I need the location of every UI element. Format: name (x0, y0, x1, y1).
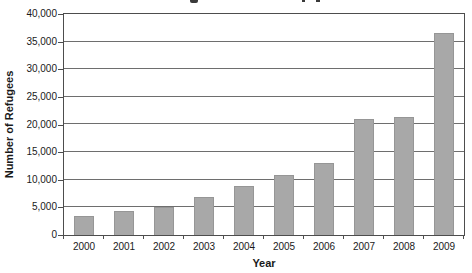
y-tick-mark (58, 97, 63, 98)
bar-2005 (274, 175, 294, 235)
x-axis-title: Year (64, 257, 464, 269)
gridline (64, 96, 464, 97)
x-tick-label: 2000 (64, 241, 104, 253)
y-tick-mark (58, 14, 63, 15)
bar-2000 (74, 216, 94, 235)
bar-2009 (434, 33, 454, 235)
x-tick-mark (183, 235, 184, 239)
x-tick-label: 2007 (344, 241, 384, 253)
bar-2007 (354, 119, 374, 235)
y-tick-mark (58, 42, 63, 43)
y-tick-mark (58, 125, 63, 126)
y-tick-mark (58, 207, 63, 208)
x-tick-label: 2004 (224, 241, 264, 253)
x-tick-label: 2001 (104, 241, 144, 253)
x-tick-label: 2005 (264, 241, 304, 253)
gridline (64, 41, 464, 42)
x-tick-mark (463, 235, 464, 239)
bar-2008 (394, 117, 414, 235)
x-tick-mark (303, 235, 304, 239)
x-tick-mark (143, 235, 144, 239)
x-tick-label: 2002 (144, 241, 184, 253)
x-tick-mark (383, 235, 384, 239)
x-tick-mark (223, 235, 224, 239)
bar-2004 (234, 186, 254, 235)
x-tick-mark (63, 235, 64, 239)
y-tick-label: 15,000 (0, 146, 57, 158)
x-tick-label: 2009 (424, 241, 464, 253)
bar-2006 (314, 163, 334, 235)
y-tick-mark (58, 152, 63, 153)
y-tick-mark (58, 69, 63, 70)
y-tick-label: 20,000 (0, 119, 57, 131)
bar-2002 (154, 207, 174, 235)
cropped-title-fragment (190, 0, 198, 3)
y-tick-label: 10,000 (0, 174, 57, 186)
y-tick-label: 35,000 (0, 36, 57, 48)
x-tick-label: 2003 (184, 241, 224, 253)
y-tick-label: 0 (0, 229, 57, 241)
cropped-title-fragment (302, 0, 305, 2)
y-tick-mark (58, 180, 63, 181)
y-tick-label: 5,000 (0, 201, 57, 213)
bar-2001 (114, 211, 134, 235)
y-tick-label: 40,000 (0, 8, 57, 20)
x-tick-mark (103, 235, 104, 239)
x-tick-mark (263, 235, 264, 239)
x-tick-mark (423, 235, 424, 239)
y-tick-label: 30,000 (0, 63, 57, 75)
plot-area (63, 13, 465, 236)
x-tick-label: 2006 (304, 241, 344, 253)
bar-2003 (194, 197, 214, 235)
refugee-bar-chart: Number of Refugees 05,00010,00015,00020,… (0, 0, 472, 273)
x-tick-label: 2008 (384, 241, 424, 253)
cropped-title-fragment (316, 0, 320, 2)
x-tick-mark (343, 235, 344, 239)
gridline (64, 68, 464, 69)
y-tick-label: 25,000 (0, 91, 57, 103)
